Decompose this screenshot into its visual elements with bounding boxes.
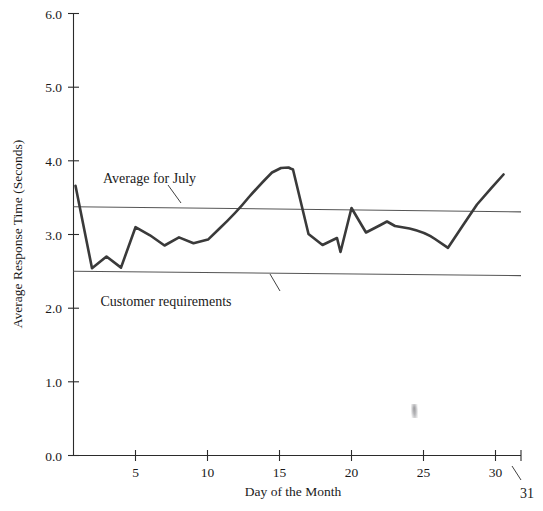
customer-requirements-label: Customer requirements [100, 294, 231, 309]
x-tick-label: 25 [417, 465, 431, 480]
average-for-july-leader [168, 185, 181, 203]
end-marker-slash [512, 466, 521, 480]
x-tick-label: 10 [201, 465, 215, 480]
y-tick-label: 0.0 [45, 449, 62, 464]
x-axis-tick-labels: 5 10 15 20 25 30 [132, 465, 502, 480]
y-tick-label: 6.0 [45, 7, 62, 22]
y-tick-label: 4.0 [45, 154, 62, 169]
customer-requirements-leader [270, 274, 280, 291]
y-tick-label: 2.0 [45, 301, 62, 316]
x-tick-label: 30 [489, 465, 503, 480]
x-tick-label: 5 [132, 465, 139, 480]
y-axis-title: Average Response Time (Seconds) [10, 140, 25, 328]
response-time-chart: 6.0 5.0 4.0 3.0 2.0 1.0 0.0 5 10 15 20 2… [0, 0, 543, 511]
y-axis-tick-labels: 6.0 5.0 4.0 3.0 2.0 1.0 0.0 [45, 7, 62, 464]
y-tick-label: 5.0 [45, 80, 62, 95]
y-tick-label: 3.0 [45, 228, 62, 243]
x-tick-label: 20 [345, 465, 359, 480]
x-axis-end-label: 31 [520, 486, 534, 501]
scan-artifact-smudge [411, 404, 418, 418]
customer-requirements-line [74, 271, 522, 275]
axis-lines [74, 13, 522, 456]
chart-canvas: 6.0 5.0 4.0 3.0 2.0 1.0 0.0 5 10 15 20 2… [0, 0, 543, 511]
x-axis-title: Day of the Month [245, 484, 342, 499]
average-for-july-label: Average for July [103, 171, 196, 186]
y-tick-label: 1.0 [45, 375, 62, 390]
x-tick-label: 15 [273, 465, 287, 480]
average-for-july-line [74, 207, 522, 212]
